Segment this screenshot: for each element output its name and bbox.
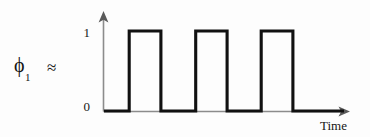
y-axis [99,11,109,112]
y-tick-label-1: 1 [76,26,90,39]
plot-canvas [0,0,370,137]
square-wave-figure: ϕ1 ≈ 1 0 Time [0,0,370,137]
signal-waveform [104,31,344,111]
y-tick-label-0: 0 [76,100,90,113]
x-axis-title: Time [320,119,347,132]
